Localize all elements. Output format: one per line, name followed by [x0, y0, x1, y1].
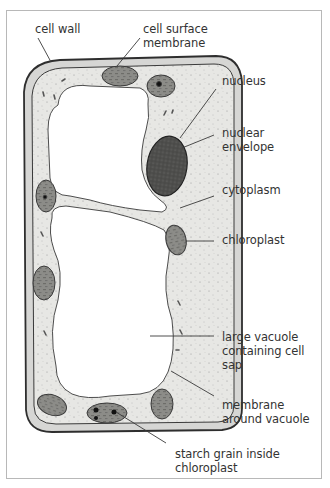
leader-cell-wall [38, 38, 51, 62]
label-cell-surface-membrane: cell surface membrane [143, 22, 208, 50]
large-vacuole [50, 206, 173, 398]
label-membrane-around-vacuole: membrane around vacuole [222, 398, 309, 426]
label-cytoplasm: cytoplasm [222, 183, 281, 197]
label-cell-wall: cell wall [35, 22, 80, 36]
label-starch-grain: starch grain inside chloroplast [175, 447, 280, 475]
label-large-vacuole: large vacuole containing cell sap [222, 330, 304, 372]
label-nucleus: nucleus [222, 74, 266, 88]
label-nuclear-envelope: nuclear envelope [222, 126, 274, 154]
label-chloroplast: chloroplast [222, 233, 284, 247]
